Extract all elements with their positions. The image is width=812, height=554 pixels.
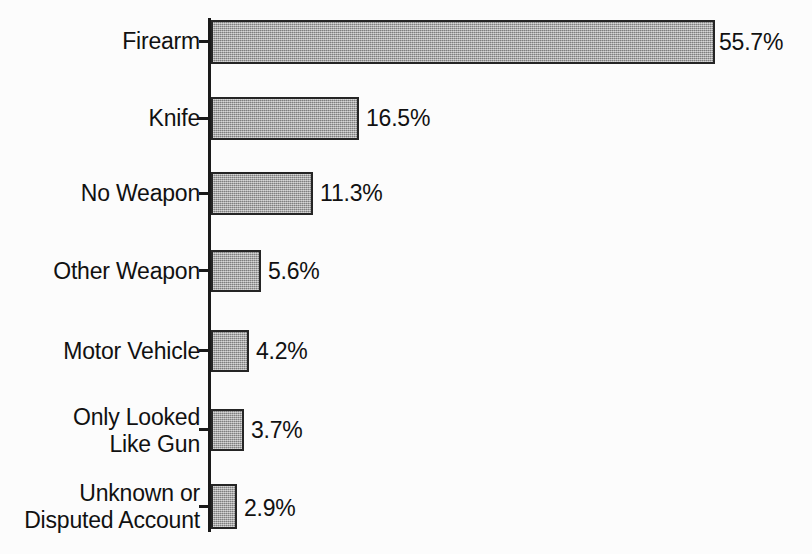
- category-label-other-weapon: Other Weapon: [0, 258, 200, 285]
- category-label-firearm: Firearm: [0, 28, 200, 55]
- category-label-unknown-disputed-account: Unknown or Disputed Account: [0, 480, 200, 534]
- value-label-other-weapon: 5.6%: [268, 260, 320, 283]
- bar-row: No Weapon 11.3%: [0, 172, 812, 215]
- bar-row: Other Weapon 5.6%: [0, 250, 812, 292]
- bar-row: Firearm 55.7%: [0, 20, 812, 64]
- axis-tick: [199, 505, 209, 508]
- bar-row: Motor Vehicle 4.2%: [0, 330, 812, 372]
- bar-chart: Firearm 55.7% Knife 16.5% No Weapon 11.3…: [0, 0, 812, 554]
- bar-motor-vehicle[interactable]: [211, 330, 249, 372]
- bar-row: Only Looked Like Gun 3.7%: [0, 409, 812, 451]
- value-label-only-looked-like-gun: 3.7%: [251, 419, 303, 442]
- axis-tick: [199, 428, 209, 431]
- category-label-knife: Knife: [0, 105, 200, 132]
- axis-tick: [199, 349, 209, 352]
- value-label-no-weapon: 11.3%: [320, 182, 383, 205]
- bar-other-weapon[interactable]: [211, 250, 261, 292]
- bar-no-weapon[interactable]: [211, 172, 313, 215]
- axis-tick: [199, 269, 209, 272]
- bar-knife[interactable]: [211, 97, 359, 140]
- value-label-firearm: 55.7%: [719, 31, 783, 54]
- bar-only-looked-like-gun[interactable]: [211, 409, 244, 451]
- bar-unknown-disputed-account[interactable]: [211, 484, 237, 529]
- bar-row: Knife 16.5%: [0, 97, 812, 140]
- axis-tick: [199, 117, 209, 120]
- category-label-motor-vehicle: Motor Vehicle: [0, 338, 200, 365]
- category-label-no-weapon: No Weapon: [0, 180, 200, 207]
- value-label-motor-vehicle: 4.2%: [256, 340, 308, 363]
- bar-row: Unknown or Disputed Account 2.9%: [0, 484, 812, 529]
- category-label-only-looked-like-gun: Only Looked Like Gun: [0, 404, 200, 458]
- axis-tick: [199, 40, 209, 43]
- bar-firearm[interactable]: [211, 20, 715, 64]
- value-label-knife: 16.5%: [366, 107, 430, 130]
- value-label-unknown-disputed-account: 2.9%: [244, 497, 296, 520]
- axis-tick: [199, 192, 209, 195]
